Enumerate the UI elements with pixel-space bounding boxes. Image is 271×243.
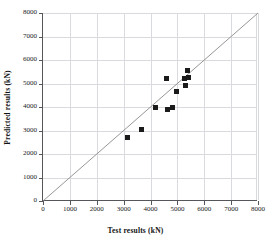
y-tick bbox=[39, 84, 43, 85]
y-tick bbox=[39, 131, 43, 132]
data-point bbox=[170, 105, 175, 110]
data-point bbox=[153, 105, 158, 110]
plot-area: 0100020003000400050006000700080000100020… bbox=[42, 13, 257, 201]
y-tick-label: 7000 bbox=[3, 32, 37, 40]
y-tick-label: 4000 bbox=[3, 102, 37, 110]
y-tick-label: 3000 bbox=[3, 126, 37, 134]
y-tick bbox=[39, 37, 43, 38]
y-tick-label: 8000 bbox=[3, 8, 37, 16]
y-tick bbox=[39, 13, 43, 14]
y-tick-label: 2000 bbox=[3, 149, 37, 157]
y-tick bbox=[39, 107, 43, 108]
y-tick-label: 0 bbox=[3, 196, 37, 204]
data-point bbox=[139, 127, 144, 132]
data-point bbox=[125, 135, 130, 140]
y-tick-label: 6000 bbox=[3, 55, 37, 63]
y-tick bbox=[39, 154, 43, 155]
gridline-vertical bbox=[258, 13, 259, 200]
y-tick bbox=[39, 201, 43, 202]
chart-figure: Predicted results (kN) 01000200030004000… bbox=[0, 0, 271, 243]
data-point bbox=[183, 83, 188, 88]
y-tick bbox=[39, 178, 43, 179]
data-point bbox=[185, 68, 190, 73]
data-point bbox=[164, 76, 169, 81]
x-tick-label: 8000 bbox=[238, 205, 271, 213]
x-axis-title: Test results (kN) bbox=[0, 226, 271, 235]
y-tick-label: 1000 bbox=[3, 173, 37, 181]
y-tick-label: 5000 bbox=[3, 79, 37, 87]
data-point bbox=[174, 89, 179, 94]
reference-line-1to1 bbox=[43, 13, 258, 201]
data-point bbox=[186, 75, 191, 80]
y-tick bbox=[39, 60, 43, 61]
